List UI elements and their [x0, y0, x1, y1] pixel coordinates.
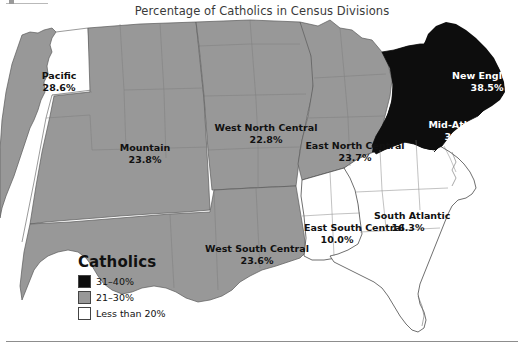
legend-swatch-low [78, 307, 91, 320]
legend-swatch-mid [78, 291, 91, 304]
region-label-mid-atlantic: Mid-Atlantic 34.6% [422, 119, 500, 142]
region-value-east-north-central: 23.7% [300, 152, 410, 164]
region-name-south-atlantic: South Atlantic [374, 210, 451, 221]
region-label-new-england: New England 38.5% [450, 70, 524, 93]
region-value-mountain: 23.8% [84, 154, 206, 166]
legend-label-high: 31–40% [96, 276, 134, 287]
map-legend: Catholics 31–40% 21–30% Less than 20% [78, 253, 206, 323]
region-label-south-atlantic: South Atlantic 16.3% [374, 210, 442, 233]
region-name-mid-atlantic: Mid-Atlantic [428, 119, 493, 130]
region-name-mountain: Mountain [120, 142, 170, 153]
region-value-west-south-central: 23.6% [194, 255, 320, 267]
region-label-west-south-central: West South Central 23.6% [194, 243, 320, 266]
region-name-west-north-central: West North Central [215, 122, 318, 133]
region-name-west-south-central: West South Central [205, 243, 309, 254]
legend-label-low: Less than 20% [96, 308, 166, 319]
region-value-new-england: 38.5% [450, 82, 524, 94]
legend-label-mid: 21–30% [96, 292, 134, 303]
map-figure: Percentage of Catholics in Census Divisi… [0, 0, 524, 350]
legend-item-low[interactable]: Less than 20% [78, 307, 206, 320]
region-name-east-north-central: East North Central [305, 140, 404, 151]
legend-title: Catholics [78, 253, 206, 271]
region-label-east-south-central: East South Central 10.0% [304, 222, 370, 245]
region-value-south-atlantic: 16.3% [374, 222, 442, 234]
region-label-mountain: Mountain 23.8% [84, 142, 206, 165]
region-value-mid-atlantic: 34.6% [422, 131, 500, 143]
bottom-divider [6, 341, 518, 342]
region-name-new-england: New England [452, 70, 522, 81]
region-value-east-south-central: 10.0% [304, 234, 370, 246]
region-name-pacific: Pacific [42, 70, 77, 81]
region-value-pacific: 28.6% [22, 82, 96, 94]
legend-swatch-high [78, 275, 91, 288]
region-label-pacific: Pacific 28.6% [22, 70, 96, 93]
legend-item-mid[interactable]: 21–30% [78, 291, 206, 304]
region-shape-mountain[interactable] [30, 22, 210, 224]
legend-item-high[interactable]: 31–40% [78, 275, 206, 288]
region-label-east-north-central: East North Central 23.7% [300, 140, 410, 163]
